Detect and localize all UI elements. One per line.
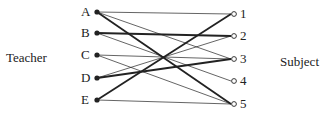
teacher-node-E [94, 97, 99, 102]
edge-E-1 [97, 14, 231, 100]
subject-node-2 [232, 34, 237, 39]
subject-node-1 [232, 12, 237, 17]
teacher-node-A [94, 9, 99, 14]
subject-node-5 [232, 102, 237, 107]
edge-D-3 [97, 59, 231, 78]
teacher-node-D [94, 75, 99, 80]
edge-E-5 [97, 100, 231, 104]
bipartite-graph [0, 0, 328, 115]
subject-node-4 [232, 79, 237, 84]
edge-A-1 [97, 12, 231, 14]
subject-node-3 [232, 57, 237, 62]
edges [97, 12, 231, 104]
teacher-node-B [94, 30, 99, 35]
teacher-node-C [94, 52, 99, 57]
